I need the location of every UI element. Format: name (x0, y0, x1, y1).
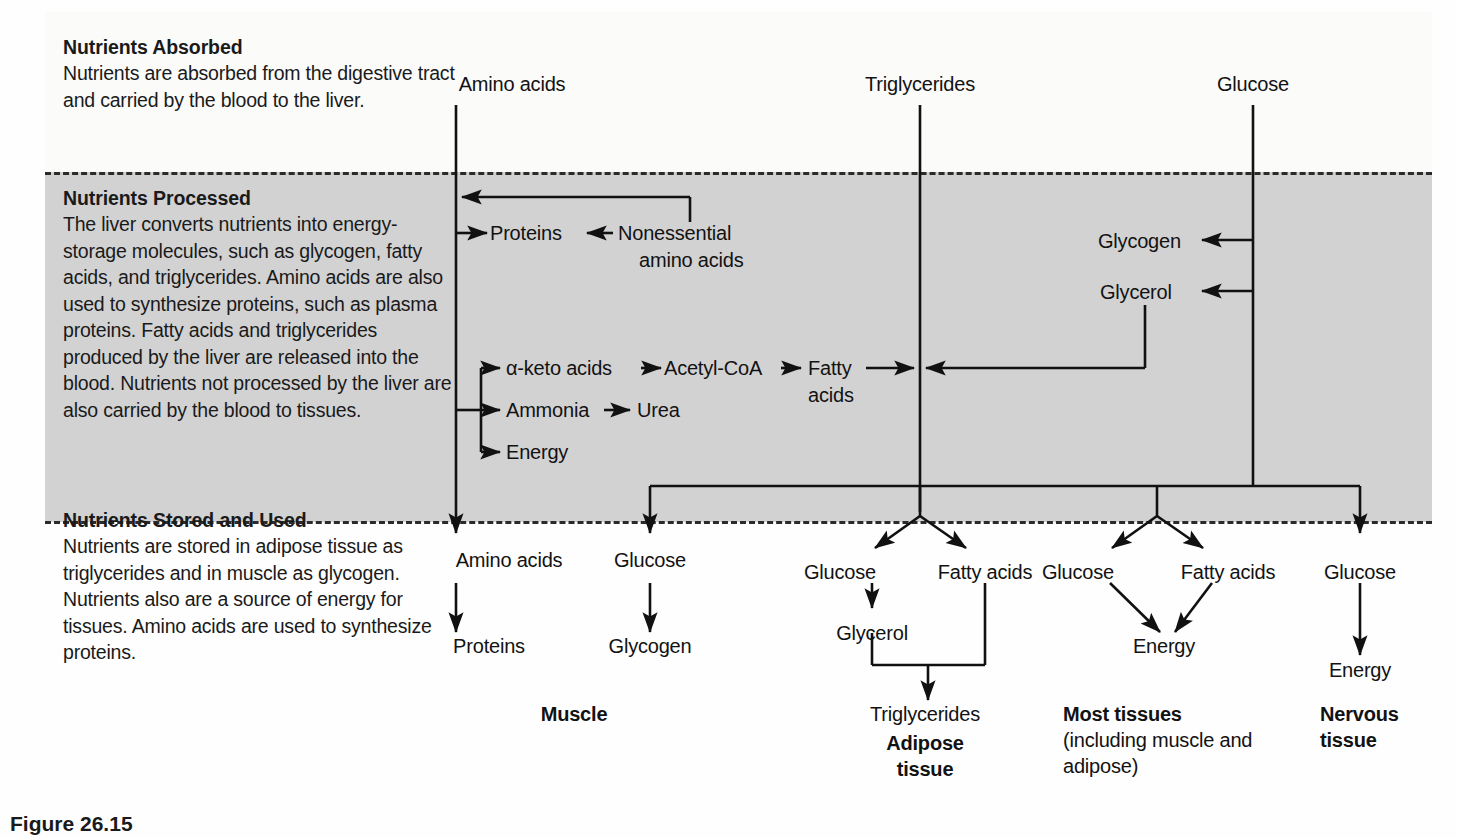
node-glycerol-adipose: Glycerol (836, 621, 908, 645)
node-nonessential-line1: Nonessential (618, 221, 731, 245)
section-stored-body: Nutrients are stored in adipose tissue a… (63, 533, 455, 666)
node-nonessential-line2: amino acids (639, 248, 744, 272)
node-fatty-acids-adipose: Fatty acids (938, 560, 1033, 584)
line-glucose-to-energy-most (1110, 583, 1160, 632)
node-urea: Urea (637, 398, 680, 422)
node-energy-nervous: Energy (1329, 658, 1391, 682)
node-triglycerides-adipose: Triglycerides (870, 702, 980, 726)
tissue-label-most-sub1: (including muscle and (1063, 728, 1252, 752)
node-amino-acids-top: Amino acids (459, 72, 566, 96)
node-energy-most: Energy (1133, 634, 1195, 658)
node-glucose-adipose: Glucose (804, 560, 876, 584)
tissue-label-most-sub2: adipose) (1063, 754, 1138, 778)
tissue-label-muscle: Muscle (541, 702, 608, 726)
node-fatty-acids-liver-line2: acids (808, 383, 854, 407)
node-fatty-acids-most: Fatty acids (1181, 560, 1276, 584)
tissue-label-adipose-line1: Adipose (886, 731, 964, 755)
section-processed-heading: Nutrients Processed (63, 186, 455, 211)
node-keto-acids: α-keto acids (506, 356, 612, 380)
node-amino-acids-muscle: Amino acids (456, 548, 563, 572)
node-proteins-liver: Proteins (490, 221, 562, 245)
section-absorbed-body: Nutrients are absorbed from the digestiv… (63, 60, 455, 113)
tissue-label-nervous-line1: Nervous (1320, 702, 1399, 726)
tissue-label-nervous-line2: tissue (1320, 728, 1377, 752)
node-ammonia: Ammonia (506, 398, 589, 422)
node-glycogen-liver: Glycogen (1098, 229, 1181, 253)
divider-absorbed-processed (45, 172, 1432, 175)
node-glucose-top: Glucose (1217, 72, 1289, 96)
section-processed-body: The liver converts nutrients into energy… (63, 211, 455, 423)
node-fatty-acids-liver-line1: Fatty (808, 356, 851, 380)
figure-page: Nutrients Absorbed Nutrients are absorbe… (0, 0, 1457, 837)
tissue-label-most: Most tissues (1063, 702, 1182, 726)
figure-caption: Figure 26.15 (10, 812, 133, 837)
node-glycerol-liver: Glycerol (1100, 280, 1172, 304)
node-energy-liver: Energy (506, 440, 568, 464)
node-glucose-muscle: Glucose (614, 548, 686, 572)
section-stored-heading: Nutrients Stored and Used (63, 508, 455, 533)
section-absorbed-heading: Nutrients Absorbed (63, 35, 455, 60)
node-triglycerides-top: Triglycerides (865, 72, 975, 96)
node-proteins-muscle: Proteins (453, 634, 525, 658)
tissue-label-adipose-line2: tissue (897, 757, 954, 781)
section-stored: Nutrients Stored and Used Nutrients are … (63, 508, 455, 666)
node-glucose-nervous: Glucose (1324, 560, 1396, 584)
node-glucose-most: Glucose (1042, 560, 1114, 584)
section-processed: Nutrients Processed The liver converts n… (63, 186, 455, 423)
section-absorbed: Nutrients Absorbed Nutrients are absorbe… (63, 35, 455, 113)
node-acetyl-coa: Acetyl-CoA (664, 356, 762, 380)
line-fatty-to-energy-most (1175, 583, 1212, 632)
node-glycogen-muscle: Glycogen (609, 634, 692, 658)
